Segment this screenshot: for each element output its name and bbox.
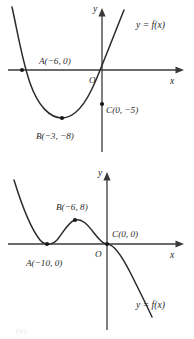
origin-label-bottom: O — [95, 249, 102, 259]
point-a-label: A(−6, 0) — [38, 56, 71, 66]
point-b-marker — [73, 218, 77, 222]
figure-parabola: A(−6, 0) B(−3, −8) C(0, −5) O y x y = f(… — [0, 0, 194, 162]
point-c-marker — [100, 102, 104, 106]
x-axis-arrowhead — [176, 240, 185, 247]
y-axis-label-top: y — [92, 3, 98, 14]
x-axis-label-top: x — [169, 75, 175, 86]
point-b-marker — [60, 116, 64, 120]
y-axis-arrowhead — [98, 8, 105, 17]
figure-footnote: (ii) — [16, 327, 27, 335]
y-axis-bottom — [103, 172, 110, 330]
point-c-label: C(0, 0) — [112, 229, 138, 239]
point-b-label: B(−6, 8) — [56, 202, 88, 212]
x-axis-arrowhead — [176, 66, 185, 73]
point-a-label: A(−10, 0) — [25, 258, 62, 268]
function-label-bottom: y = f(x) — [135, 299, 165, 311]
x-axis-bottom — [8, 240, 184, 247]
point-c-label: C(0, −5) — [106, 105, 138, 115]
figure-cubic: A(−10, 0) B(−6, 8) C(0, 0) O y x y = f(x… — [0, 162, 194, 339]
cubic-curve — [14, 180, 152, 317]
point-a-marker — [45, 242, 49, 246]
function-label-top: y = f(x) — [135, 19, 165, 31]
point-c-marker — [105, 242, 109, 246]
origin-label-top: O — [89, 75, 96, 85]
y-axis-top — [98, 8, 105, 152]
parabola-plot: A(−6, 0) B(−3, −8) C(0, −5) O y x y = f(… — [0, 0, 194, 162]
point-a-marker — [20, 68, 24, 72]
cubic-plot: A(−10, 0) B(−6, 8) C(0, 0) O y x y = f(x… — [0, 162, 194, 339]
y-axis-label-bottom: y — [97, 167, 103, 178]
point-b-label: B(−3, −8) — [36, 131, 74, 141]
x-axis-top — [8, 66, 184, 73]
y-axis-arrowhead — [103, 172, 110, 181]
x-axis-label-bottom: x — [169, 249, 175, 260]
